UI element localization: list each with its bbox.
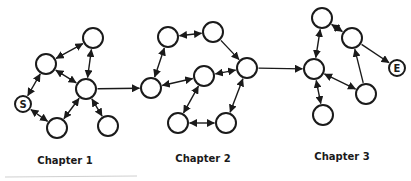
edge-n9-n6 bbox=[162, 79, 193, 86]
ch1-bottom-right-node bbox=[98, 116, 118, 136]
ch2-left-node bbox=[141, 78, 161, 98]
ch2-right-node bbox=[237, 58, 257, 78]
ch3-lower-right-node bbox=[356, 84, 376, 104]
edge-n4-n3 bbox=[64, 98, 79, 119]
edge-n14-n15 bbox=[332, 24, 343, 31]
ch3-top-node bbox=[312, 8, 332, 28]
chapter-label-3: Chapter 3 bbox=[314, 151, 369, 162]
edge-n1-n3 bbox=[56, 70, 76, 83]
ch3-hub-node bbox=[304, 59, 324, 79]
ch1-upper-left-node bbox=[36, 54, 56, 74]
nodes-layer: SE bbox=[15, 8, 405, 138]
ch2-top-left-node bbox=[158, 27, 178, 47]
ch3-bottom-node bbox=[313, 105, 333, 125]
edge-n6-n7 bbox=[155, 48, 165, 77]
scan-artifact-line bbox=[5, 176, 137, 177]
edge-n7-n8 bbox=[179, 33, 201, 35]
flow-diagram: SE Chapter 1Chapter 2Chapter 3 bbox=[0, 0, 411, 181]
end-node-letter: E bbox=[394, 63, 401, 74]
edge-n10-n13 bbox=[258, 68, 302, 69]
edge-n9-n11 bbox=[184, 86, 199, 113]
artifact-layer bbox=[5, 176, 137, 177]
edge-n1-n2 bbox=[56, 44, 83, 59]
ch1-hub-node bbox=[76, 79, 96, 99]
edge-n12-n10 bbox=[230, 79, 243, 113]
edge-s-n1 bbox=[28, 74, 41, 96]
ch1-top-node bbox=[83, 28, 103, 48]
edge-n2-n3 bbox=[88, 49, 92, 77]
edge-n13-n17 bbox=[316, 80, 321, 103]
edge-n10-n9 bbox=[215, 70, 235, 74]
ch2-center-node bbox=[194, 66, 214, 86]
ch1-bottom-node bbox=[47, 118, 67, 138]
ch2-bottom-left-node bbox=[168, 113, 188, 133]
edge-n13-n14 bbox=[316, 29, 320, 57]
edge-n8-n10 bbox=[221, 40, 239, 59]
ch2-top-right-node bbox=[203, 22, 223, 42]
labels-layer: Chapter 1Chapter 2Chapter 3 bbox=[37, 151, 369, 166]
chapter-label-2: Chapter 2 bbox=[175, 153, 230, 164]
edge-s-n4 bbox=[31, 109, 48, 121]
edge-n3-n6 bbox=[97, 88, 139, 89]
chapter-label-1: Chapter 1 bbox=[37, 155, 92, 166]
edge-n13-n16 bbox=[324, 74, 355, 89]
ch2-bottom-right-node bbox=[216, 113, 236, 133]
diagram-canvas: SE Chapter 1Chapter 2Chapter 3 bbox=[0, 0, 411, 181]
start-node-letter: S bbox=[19, 99, 26, 110]
edge-n3-n5 bbox=[92, 99, 102, 116]
edge-n15-e bbox=[362, 44, 390, 62]
ch3-upper-right-node bbox=[342, 28, 362, 48]
edge-n16-n15 bbox=[355, 49, 363, 83]
